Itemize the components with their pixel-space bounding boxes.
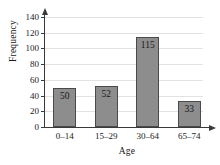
y-axis-title: Frequency [8,2,18,80]
y-axis-tick-label: 120 [26,28,40,37]
y-axis-tick-label: 0 [35,123,40,132]
gridline [45,17,203,18]
bar-value-label: 115 [137,41,158,51]
bar-value-label: 50 [54,92,75,102]
x-axis-title: Age [44,146,210,156]
gridline [45,48,203,49]
gridline [45,64,203,65]
x-axis-tick-label: 15–29 [86,132,128,141]
y-axis-tick-label: 20 [30,107,39,116]
y-axis-tick-label: 80 [30,60,39,69]
y-axis-line [44,14,45,128]
bar-value-label: 33 [179,105,200,115]
x-axis-arrow-icon [209,125,216,131]
plot-area: 020406080100120140 505211533 0–1415–2930… [44,14,210,128]
bar: 115 [136,37,159,127]
y-axis-arrow-icon [42,8,48,15]
y-axis-tick-label: 40 [30,91,39,100]
gridline [45,33,203,34]
x-axis-line [44,127,210,128]
gridline [45,80,203,81]
y-axis-tick-label: 140 [26,13,40,22]
bar-chart-figure: Frequency 020406080100120140 505211533 0… [0,0,220,165]
bar-value-label: 52 [96,90,117,100]
y-axis-tick-label: 60 [30,75,39,84]
x-axis-tick-label: 0–14 [44,132,86,141]
bar: 33 [178,101,201,127]
x-axis-tick-label: 30–64 [127,132,169,141]
bar: 50 [53,88,76,127]
bar: 52 [95,86,118,127]
y-axis-tick-label: 100 [26,44,40,53]
x-axis-tick-label: 65–74 [169,132,211,141]
